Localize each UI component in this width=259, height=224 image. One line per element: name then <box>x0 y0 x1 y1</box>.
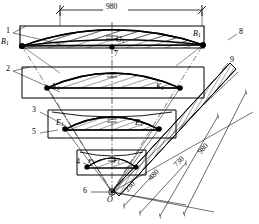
point-label-E1-right: E1 <box>135 119 143 128</box>
callout-6: 6 <box>83 187 87 195</box>
callout-9: 9 <box>230 56 234 64</box>
point-label-F1-right: F1 <box>113 158 120 166</box>
point-label-E1-left: E1 <box>56 119 64 128</box>
point-label-F1-left: F1 <box>88 158 95 166</box>
technical-drawing-canvas: 980 1 2 3 5 4 6 7 8 9 B1 B1 K1 K1 E1 E1 … <box>0 0 259 224</box>
callout-5: 5 <box>32 128 36 136</box>
callout-8: 8 <box>239 28 243 36</box>
upper-centre-label-O1: O1 <box>116 36 125 45</box>
callout-4: 4 <box>76 158 80 166</box>
callout-7: 7 <box>114 50 118 58</box>
callout-1: 1 <box>6 27 10 35</box>
point-label-B1-left: B1 <box>1 38 9 47</box>
point-label-B1-right: B1 <box>193 30 201 39</box>
callout-2: 2 <box>6 65 10 73</box>
top-dimension-line <box>56 5 206 26</box>
callout-3: 3 <box>32 106 36 114</box>
point-label-K1-right: K1 <box>156 83 164 92</box>
top-dimension-label: 980 <box>106 3 117 11</box>
centre-label-O: O <box>107 196 113 204</box>
point-label-K1-left: K1 <box>52 83 60 92</box>
